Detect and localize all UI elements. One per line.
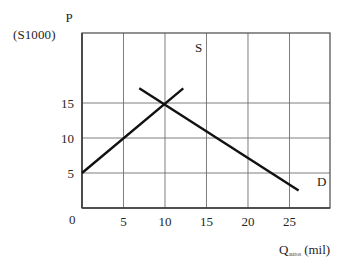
x-axis-title-unit: (mil) [304, 242, 330, 257]
x-axis-title-main: Q [279, 242, 288, 257]
y-tick-label-10: 10 [48, 131, 74, 147]
demand-curve-label: D [317, 174, 326, 190]
x-tick-label-5: 5 [110, 214, 136, 230]
x-axis-title-subscript: autos [288, 250, 301, 257]
y-axis-title: P [59, 11, 79, 24]
x-tick-label-25: 25 [276, 214, 302, 230]
x-axis-title: Qautos(mil) [279, 243, 330, 258]
plot-background [82, 33, 330, 208]
x-tick-label-15: 15 [193, 214, 219, 230]
x-tick-label-20: 20 [235, 214, 261, 230]
supply-curve-label: S [195, 40, 202, 56]
y-tick-label-15: 15 [48, 96, 74, 112]
x-tick-label-10: 10 [152, 214, 178, 230]
y-axis-units: (S1000) [13, 28, 56, 41]
supply-demand-chart: P (S1000) Qautos(mil) 0 15105 510152025 … [0, 0, 362, 271]
origin-label: 0 [69, 213, 76, 226]
y-tick-label-5: 5 [48, 166, 74, 182]
